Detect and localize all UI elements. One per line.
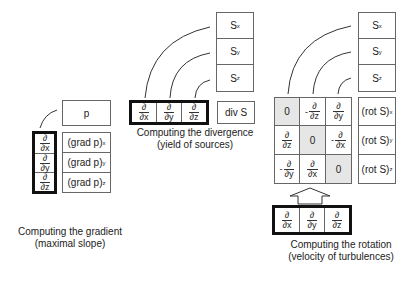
gradient-output-z: (grad p)z (62, 172, 111, 193)
divergence-input-sy: Sy (216, 38, 254, 65)
rotation-matrix-1-1: 0 (299, 125, 326, 155)
rotation-operator-frame (272, 205, 352, 235)
divergence-operator-frame (129, 100, 209, 125)
divergence-input-sx: Sx (216, 12, 254, 39)
up-arrow-icon (290, 188, 330, 204)
gradient-caption: Computing the gradient (maximal slope) (0, 226, 140, 250)
gradient-output-y: (grad p)y (62, 152, 111, 173)
rotation-output-z: (rot S)z (358, 154, 396, 184)
divergence-input-sz: Sz (216, 64, 254, 92)
rotation-matrix-1-0: ∂∂z (274, 125, 300, 155)
gradient-input-p: p (62, 100, 111, 126)
rotation-input-sx: Sx (358, 12, 396, 39)
rotation-matrix-0-1: -∂∂z (299, 97, 326, 126)
rotation-matrix-2-0: -∂∂y (274, 154, 300, 184)
rotation-matrix-2-2: 0 (325, 154, 352, 184)
rotation-matrix-0-2: ∂∂y (325, 97, 352, 126)
rotation-output-x: (rot S)x (358, 97, 396, 126)
divergence-output: div S (217, 101, 255, 124)
rotation-matrix-2-1: ∂∂x (299, 154, 326, 184)
rotation-matrix-1-2: -∂∂x (325, 125, 352, 155)
rotation-output-y: (rot S)y (358, 125, 396, 155)
rotation-matrix-0-0: 0 (274, 97, 300, 126)
gradient-operator-frame (32, 131, 57, 194)
gradient-output-x: (grad p)x (62, 132, 111, 153)
rotation-input-sy: Sy (358, 38, 396, 65)
rotation-caption: Computing the rotation (velocity of turb… (265, 239, 417, 263)
rotation-input-sz: Sz (358, 64, 396, 92)
divergence-caption: Computing the divergence (yield of sourc… (120, 127, 270, 151)
